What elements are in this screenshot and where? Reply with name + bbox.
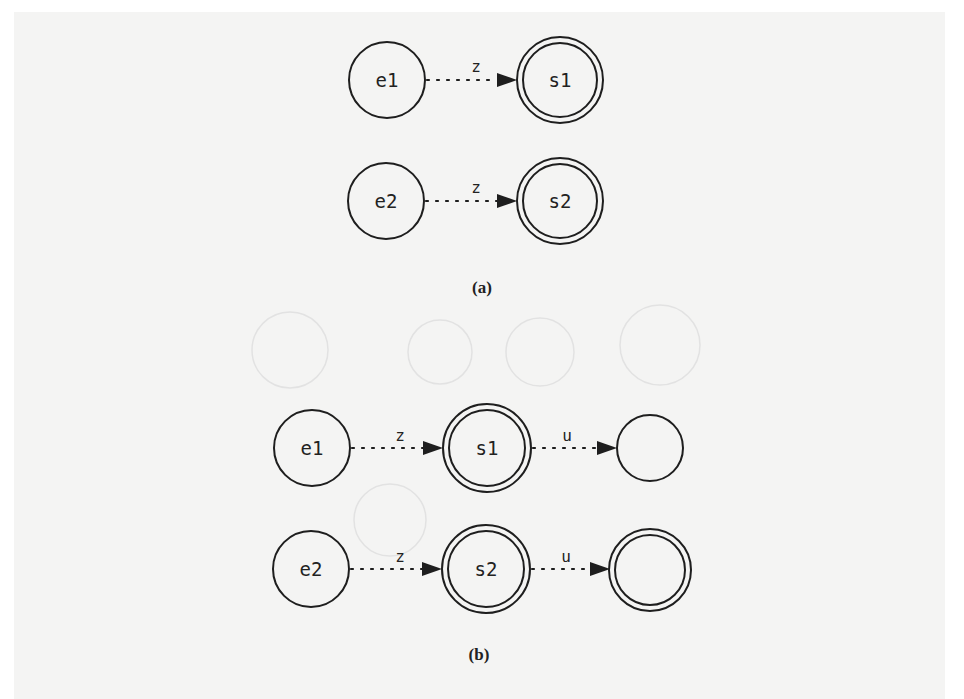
bleed-through-ghost [252,305,700,556]
node-label: s2 [475,558,498,580]
node-label: s1 [476,437,499,459]
arrowhead-icon [597,441,617,455]
node-label: e1 [301,437,324,459]
node-label: e2 [300,558,323,580]
node-e2-b: e2 [273,531,349,607]
edge-label: z [395,426,405,445]
arrowhead-icon [497,73,517,87]
edge-label: z [471,178,481,197]
node-e1-b: e1 [274,410,350,486]
node-label: e1 [376,69,399,91]
node-label: s1 [549,69,572,91]
panel-a: e1 z s1 e2 z s2 (a) [348,37,603,297]
node-s1-b: s1 [443,404,531,492]
state-diagram-figure: e1 z s1 e2 z s2 (a) [0,0,964,699]
edge-s2-n2-b: u [532,547,610,576]
node-n1-b [617,415,683,481]
edge-e1-s1-b: z [352,426,443,455]
edge-label: u [562,426,572,445]
node-e1-a: e1 [349,42,425,118]
node-label: e2 [375,190,398,212]
panel-b: e1 z s1 u e2 z [273,404,691,664]
arrowhead-icon [423,441,443,455]
edge-e2-s2-a: z [426,178,517,208]
arrowhead-icon [497,194,517,208]
node-s1-a: s1 [517,37,603,123]
edge-label: z [395,547,405,566]
node-n2-b [609,529,691,611]
edge-s1-n1-b: u [533,426,617,455]
caption-a: (a) [472,278,492,297]
node-e2-a: e2 [348,163,424,239]
node-s2-b: s2 [442,525,530,613]
node-s2-a: s2 [517,158,603,244]
arrowhead-icon [590,562,610,576]
edge-label: z [471,57,481,76]
arrowhead-icon [422,562,442,576]
caption-b: (b) [469,645,490,664]
edge-e1-s1-a: z [427,57,517,87]
edge-label: u [561,547,571,566]
edge-e2-s2-b: z [351,547,442,576]
node-label: s2 [549,190,572,212]
